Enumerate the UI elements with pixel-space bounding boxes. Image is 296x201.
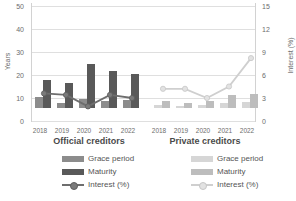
official-interest-line — [31, 0, 147, 136]
legend-label-grace: Grace period — [217, 154, 263, 163]
legend-item-grace-official[interactable]: Grace period — [62, 152, 134, 165]
legend-item-interest-official[interactable]: Interest (%) — [62, 178, 134, 191]
legend-item-interest-private[interactable]: Interest (%) — [191, 178, 263, 191]
legend-item-maturity-official[interactable]: Maturity — [62, 165, 134, 178]
legend-swatch-grace-icon — [62, 156, 84, 162]
legend-label-interest: Interest (%) — [88, 180, 129, 189]
legend-swatch-maturity-icon — [62, 169, 84, 175]
panel-private-creditors: 2018 2019 2020 2021 2022 Private credito… — [150, 0, 260, 136]
y-tick-right-15: 15 — [262, 3, 278, 10]
chart-figure: Years Interest (%) 50 40 30 20 10 0 15 1… — [0, 0, 296, 201]
y-axis-ticks-left: 50 40 30 20 10 0 — [7, 0, 24, 136]
plot-area: Years Interest (%) 50 40 30 20 10 0 15 1… — [0, 0, 296, 136]
legend-official: Grace period Maturity Interest (%) — [62, 152, 134, 191]
legend-item-maturity-private[interactable]: Maturity — [191, 165, 263, 178]
legend-label-grace: Grace period — [88, 154, 134, 163]
y-tick-right-9: 9 — [262, 49, 278, 56]
legend-line-interest-icon — [62, 181, 84, 188]
y-tick-left-40: 40 — [8, 26, 24, 33]
private-interest-line — [150, 0, 260, 136]
legend-swatch-grace-icon — [191, 156, 213, 162]
x-tick-official-2022: 2022 — [115, 127, 141, 134]
panel-official-creditors: 2018 2019 2020 2021 2022 Official credit… — [31, 0, 147, 136]
y-axis-title-right: Interest (%) — [287, 28, 294, 84]
y-tick-right-3: 3 — [262, 95, 278, 102]
y-tick-right-12: 12 — [262, 26, 278, 33]
y-axis-ticks-right: 15 12 9 6 3 0 — [262, 0, 279, 136]
y-tick-left-20: 20 — [8, 72, 24, 79]
y-tick-left-10: 10 — [8, 95, 24, 102]
y-tick-left-0: 0 — [8, 118, 24, 125]
legend-label-maturity: Maturity — [217, 167, 245, 176]
y-tick-left-50: 50 — [8, 3, 24, 10]
panel-title-official: Official creditors — [31, 136, 147, 146]
y-tick-right-6: 6 — [262, 72, 278, 79]
legend-private: Grace period Maturity Interest (%) — [191, 152, 263, 191]
panel-title-private: Private creditors — [150, 136, 260, 146]
legend-label-interest: Interest (%) — [217, 180, 258, 189]
x-tick-private-2022: 2022 — [234, 127, 260, 134]
legend-item-grace-private[interactable]: Grace period — [191, 152, 263, 165]
legend-swatch-maturity-icon — [191, 169, 213, 175]
legend-label-maturity: Maturity — [88, 167, 116, 176]
legend-line-interest-icon — [191, 181, 213, 188]
y-tick-right-0: 0 — [262, 118, 278, 125]
y-tick-left-30: 30 — [8, 49, 24, 56]
